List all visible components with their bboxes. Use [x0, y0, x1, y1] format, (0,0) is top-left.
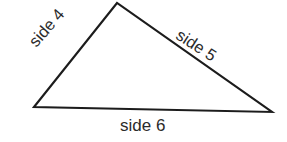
triangle-outline: [34, 3, 272, 112]
triangle-diagram-canvas: side 4 side 5 side 6: [0, 0, 287, 142]
bottom-edge-label: side 6: [120, 117, 165, 134]
